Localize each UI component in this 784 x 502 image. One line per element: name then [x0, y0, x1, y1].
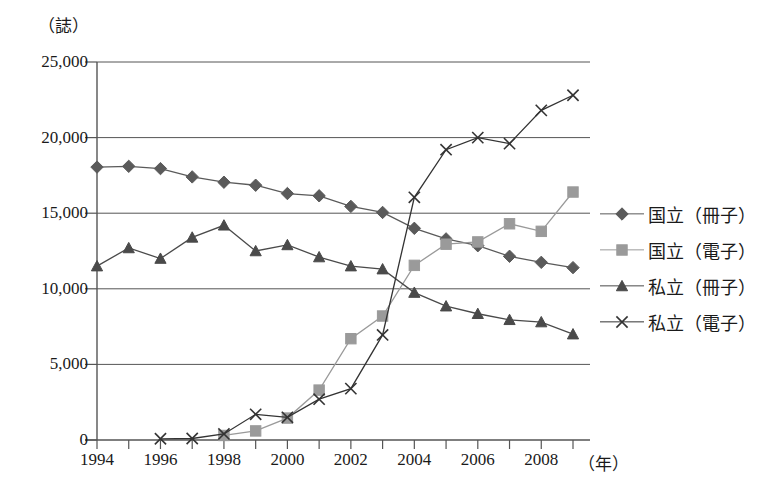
- x-tick-label: 2006: [461, 450, 495, 470]
- chart-container: （誌） 05,00010,00015,00020,00025,000 19941…: [0, 0, 784, 502]
- marker-square: [473, 237, 483, 247]
- marker-triangle: [440, 301, 451, 311]
- marker-x: [409, 192, 420, 203]
- marker-triangle: [218, 220, 229, 230]
- legend-marker-glyph: [613, 277, 631, 295]
- marker-triangle: [282, 239, 293, 249]
- marker-x: [377, 329, 388, 340]
- legend-label: 私立（電子）: [648, 309, 756, 335]
- legend-marker-triangle-icon: [600, 277, 644, 295]
- marker-diamond: [249, 179, 261, 191]
- legend-marker-diamond-icon: [600, 205, 644, 223]
- marker-x: [440, 144, 451, 155]
- legend-item-1[interactable]: 国立（冊子）: [600, 196, 784, 232]
- marker-triangle: [187, 232, 198, 242]
- marker-diamond: [281, 187, 293, 199]
- marker-triangle: [123, 242, 134, 252]
- marker-x: [536, 105, 547, 116]
- legend-label: 国立（電子）: [648, 237, 756, 263]
- legend-label: 私立（冊子）: [648, 273, 756, 299]
- y-tick-label: 15,000: [41, 203, 88, 223]
- marker-x: [616, 316, 627, 327]
- marker-square: [409, 260, 419, 270]
- legend-marker-glyph: [613, 313, 631, 331]
- series-line: [224, 192, 573, 435]
- marker-diamond: [91, 161, 103, 173]
- series-line: [97, 166, 573, 267]
- y-tick-label: 0: [80, 430, 89, 450]
- marker-diamond: [376, 206, 388, 218]
- series-2: [219, 187, 578, 441]
- marker-x: [504, 138, 515, 149]
- marker-triangle: [91, 261, 102, 271]
- legend-marker-glyph: [613, 241, 631, 259]
- chart-legend: 国立（冊子）国立（電子）私立（冊子）私立（電子）: [600, 196, 784, 340]
- legend-marker-x-icon: [600, 313, 644, 331]
- marker-x: [345, 383, 356, 394]
- x-tick-label: 2008: [524, 450, 558, 470]
- x-tick-label: 1996: [143, 450, 177, 470]
- marker-diamond: [567, 261, 579, 273]
- series-line: [97, 225, 573, 334]
- marker-diamond: [313, 190, 325, 202]
- marker-diamond: [186, 171, 198, 183]
- marker-square: [314, 385, 324, 395]
- legend-item-3[interactable]: 私立（冊子）: [600, 268, 784, 304]
- marker-square: [346, 333, 356, 343]
- marker-diamond: [345, 200, 357, 212]
- marker-square: [250, 426, 260, 436]
- x-tick-label: 1998: [207, 450, 241, 470]
- marker-square: [617, 245, 627, 255]
- legend-label: 国立（冊子）: [648, 201, 756, 227]
- x-axis-unit-label: （年）: [578, 450, 629, 475]
- marker-square: [536, 226, 546, 236]
- legend-item-2[interactable]: 国立（電子）: [600, 232, 784, 268]
- x-tick-label: 2000: [270, 450, 304, 470]
- y-tick-label: 5,000: [50, 354, 88, 374]
- marker-diamond: [616, 208, 628, 220]
- marker-square: [568, 187, 578, 197]
- legend-item-4[interactable]: 私立（電子）: [600, 304, 784, 340]
- legend-marker-glyph: [613, 205, 631, 223]
- marker-x: [567, 90, 578, 101]
- marker-triangle: [616, 280, 627, 290]
- marker-diamond: [535, 256, 547, 268]
- x-tick-label: 2004: [397, 450, 431, 470]
- y-tick-label: 20,000: [41, 128, 88, 148]
- marker-diamond: [408, 222, 420, 234]
- marker-square: [504, 219, 514, 229]
- y-tick-label: 10,000: [41, 279, 88, 299]
- marker-diamond: [503, 250, 515, 262]
- marker-square: [441, 239, 451, 249]
- marker-triangle: [314, 251, 325, 261]
- marker-triangle: [155, 253, 166, 263]
- marker-diamond: [218, 176, 230, 188]
- marker-triangle: [567, 329, 578, 339]
- marker-triangle: [345, 261, 356, 271]
- marker-diamond: [123, 160, 135, 172]
- y-tick-label: 25,000: [41, 52, 88, 72]
- y-axis-tick-labels: 05,00010,00015,00020,00025,000: [0, 0, 88, 502]
- marker-diamond: [154, 162, 166, 174]
- x-tick-label: 1994: [80, 450, 114, 470]
- x-tick-label: 2002: [334, 450, 368, 470]
- series-3: [91, 220, 578, 339]
- legend-marker-square-icon: [600, 241, 644, 259]
